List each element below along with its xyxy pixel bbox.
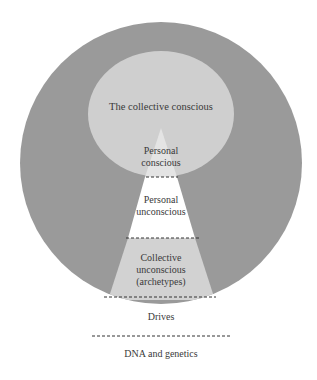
psyche-diagram — [0, 0, 317, 380]
label-line: unconscious — [111, 264, 211, 276]
label-line: Collective — [111, 252, 211, 264]
label-line: conscious — [111, 157, 211, 169]
label-drives: Drives — [111, 311, 211, 323]
label-line: (archetypes) — [111, 276, 211, 288]
label-dna: DNA and genetics — [91, 348, 231, 360]
label-line: Personal — [111, 194, 211, 206]
label-collective-unconscious: Collective unconscious (archetypes) — [111, 252, 211, 288]
label-line: Personal — [111, 145, 211, 157]
label-personal-unconscious: Personal unconscious — [111, 194, 211, 218]
label-line: unconscious — [111, 206, 211, 218]
label-collective-conscious: The collective conscious — [80, 101, 242, 113]
label-personal-conscious: Personal conscious — [111, 145, 211, 169]
